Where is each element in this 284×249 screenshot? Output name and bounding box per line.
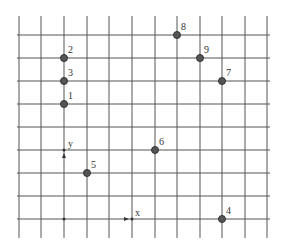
point-label: 7 [226, 67, 231, 78]
point-9: 9 [197, 44, 210, 62]
point-marker [61, 55, 68, 62]
grid-svg: y x 123456789 [0, 0, 284, 249]
y-axis-arrow-icon [62, 153, 66, 158]
point-8: 8 [174, 21, 187, 39]
point-label: 9 [204, 44, 209, 55]
point-marker [219, 78, 226, 85]
point-2: 2 [61, 44, 74, 62]
point-label: 3 [68, 67, 73, 78]
point-label: 1 [68, 90, 73, 101]
grid-lines [17, 16, 270, 238]
point-label: 6 [159, 136, 164, 147]
y-axis-label: y [68, 138, 73, 149]
y-axis-unit-point [63, 149, 66, 152]
point-marker [219, 216, 226, 223]
point-marker [61, 78, 68, 85]
point-label: 5 [91, 159, 96, 170]
x-axis-label: x [135, 207, 140, 218]
x-axis-arrow-icon [124, 217, 129, 221]
x-axis-unit-point [131, 218, 134, 221]
point-label: 2 [68, 44, 73, 55]
point-marker [152, 147, 159, 154]
point-7: 7 [219, 67, 232, 85]
point-marker [61, 101, 68, 108]
point-marker [174, 32, 181, 39]
point-5: 5 [84, 159, 97, 177]
point-4: 4 [219, 205, 232, 223]
labeled-points: 123456789 [61, 21, 232, 223]
point-marker [197, 55, 204, 62]
point-marker [84, 170, 91, 177]
point-1: 1 [61, 90, 74, 108]
point-label: 8 [181, 21, 186, 32]
point-label: 4 [226, 205, 231, 216]
point-6: 6 [152, 136, 165, 154]
origin-point [63, 218, 66, 221]
coordinate-grid-diagram: y x 123456789 [0, 0, 284, 249]
point-3: 3 [61, 67, 74, 85]
